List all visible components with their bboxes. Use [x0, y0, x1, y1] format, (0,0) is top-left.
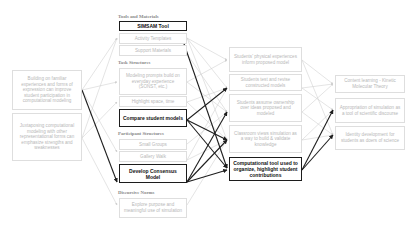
design-element-modeling-prompts: Modeling prompts build on everyday exper…: [119, 68, 187, 95]
outcome-text: Content learning - Kinetic Molecular The…: [339, 78, 401, 89]
outcome-text: Identity development for students as doe…: [339, 132, 401, 143]
design-element-text: Support Materials: [135, 48, 171, 54]
assumption-box-familiar-experiences: Building on familiar experiences and for…: [12, 70, 82, 110]
mediating-process-text: Classroom views simulation as a way to b…: [233, 131, 298, 148]
outcome-identity-development: Identity development for students as doe…: [335, 126, 405, 150]
mediating-process-text: Computational tool used to organize, hig…: [233, 160, 298, 178]
mediating-process-computational-tool: Computational tool used to organize, hig…: [229, 157, 302, 181]
design-element-text: Gallery Walk: [140, 154, 166, 160]
design-element-compare-student-models: Compare student models: [119, 109, 187, 127]
design-element-support-materials: Support Materials: [119, 45, 187, 56]
design-element-text: Modeling prompts build on everyday exper…: [123, 73, 183, 90]
assumption-box-juxtaposing: Juxtaposing computational modeling with …: [12, 113, 82, 161]
design-element-small-groups: Small Groups: [119, 139, 187, 150]
mediating-process-text: Students test and revise constructed mod…: [233, 77, 298, 88]
assumption-text: Juxtaposing computational modeling with …: [16, 123, 78, 151]
section-label-task-structures: Task Structures: [118, 60, 150, 65]
section-label-participant-structures: Participant Structures: [118, 131, 164, 136]
mediating-process-text: Students assume ownership over ideas pro…: [233, 100, 298, 117]
design-element-text: Develop Consensus Model: [123, 168, 183, 180]
assumption-text: Building on familiar experiences and for…: [16, 76, 78, 104]
design-element-text: Activity Templates: [135, 36, 172, 42]
design-element-text: Highlight space, time: [132, 99, 175, 105]
section-label-discursive-norms: Discursive Norms: [118, 190, 154, 195]
outcome-content-learning: Content learning - Kinetic Molecular The…: [335, 75, 405, 93]
conjecture-map-diagram: Building on familiar experiences and for…: [0, 0, 418, 244]
design-element-explore-purpose: Explore purpose and meaningful use of si…: [119, 198, 187, 218]
design-element-gallery-walk: Gallery Walk: [119, 151, 187, 162]
mediating-process-classroom-views: Classroom views simulation as a way to b…: [229, 125, 302, 153]
outcome-appropriation: Appropriation of simulation as a tool of…: [335, 98, 405, 123]
design-element-activity-templates: Activity Templates: [119, 33, 187, 44]
design-element-text: Compare student models: [123, 115, 183, 121]
mediating-process-physical-experiences: Students' physical experiences inform pr…: [229, 47, 302, 72]
design-element-develop-consensus-model: Develop Consensus Model: [119, 164, 187, 183]
design-element-text: SIMSAM Tool: [137, 23, 169, 29]
section-label-tools-materials: Tools and Materials: [118, 14, 159, 19]
mediating-process-ownership: Students assume ownership over ideas pro…: [229, 94, 302, 122]
mediating-process-test-revise: Students test and revise constructed mod…: [229, 74, 302, 91]
mediating-process-text: Students' physical experiences inform pr…: [233, 54, 298, 65]
design-element-text: Small Groups: [139, 142, 167, 148]
design-element-text: Explore purpose and meaningful use of si…: [123, 202, 183, 213]
design-element-simsam-tool: SIMSAM Tool: [119, 21, 187, 31]
design-element-highlight-space-time: Highlight space, time: [119, 96, 187, 107]
outcome-text: Appropriation of simulation as a tool of…: [339, 105, 401, 116]
